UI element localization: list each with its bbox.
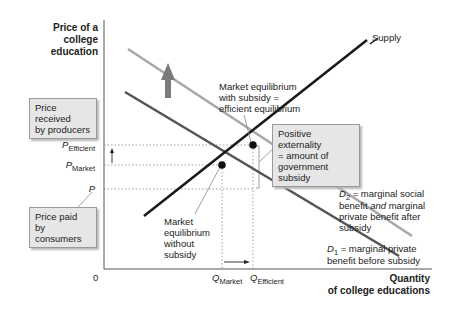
price-received-callout: Price received by producers (29, 98, 97, 139)
d1-sub: 1 (334, 248, 338, 257)
y-title-line: Price of a (51, 22, 98, 34)
tick-sub: Market (219, 277, 242, 286)
d1-label: D1 = marginal private benefit before sub… (327, 243, 420, 266)
d2-text: = marginal social (350, 188, 424, 199)
callout-line: Positive externality (278, 128, 354, 150)
d2-text: private benefit after (339, 211, 425, 222)
callout-line: Price received (35, 102, 91, 124)
d1-main: D (327, 243, 334, 254)
callout-line: = amount of (278, 150, 354, 161)
d1-text: = marginal private (338, 243, 416, 254)
annotation-line: without (164, 238, 210, 249)
annotation-line: equilibrium (164, 227, 210, 238)
d2-text: and (370, 200, 386, 211)
callout-line: by consumers (35, 222, 91, 244)
tick-main: P (89, 183, 95, 194)
d1-text: benefit before subsidy (327, 255, 420, 266)
tick-q-efficient: QEfficient (250, 272, 284, 284)
d2-text: subsidy (339, 222, 425, 233)
price-increase-arrow-icon (110, 148, 114, 163)
tick-p: P (89, 183, 95, 194)
market-equilibrium-point (218, 161, 226, 169)
tick-p-market: PMarket (66, 159, 95, 171)
callout-line: Price paid (35, 211, 91, 222)
d2-text: marginal (386, 200, 425, 211)
efficient-equilibrium-annotation: Market equilibrium with subsidy = effici… (219, 81, 300, 114)
efficient-equilibrium-point (249, 141, 257, 149)
d2-main: D (339, 188, 346, 199)
annotation-line: efficient equilibrium (219, 103, 300, 114)
d2-sub: 2 (346, 193, 350, 202)
x-axis-title: Quantity of college educations (328, 273, 430, 297)
demand-shift-arrow-icon (161, 63, 175, 98)
tick-sub: Efficient (257, 277, 284, 286)
x-title-line: of college educations (328, 285, 430, 297)
y-title-line: education (51, 46, 98, 58)
positive-externality-callout: Positive externality = amount of governm… (272, 124, 360, 187)
origin-label: 0 (93, 272, 98, 283)
tick-sub: Market (72, 164, 95, 173)
subsidy-bracket (256, 146, 259, 188)
price-paid-callout: Price paid by consumers (29, 207, 97, 248)
x-title-line: Quantity (328, 273, 430, 285)
annotation-line: Market equilibrium (219, 81, 300, 92)
annotation-line: subsidy (164, 249, 210, 260)
y-axis-title: Price of a college education (51, 22, 98, 58)
annotation-line: with subsidy = (219, 92, 300, 103)
callout-line: by producers (35, 124, 91, 135)
d2-text: benefit (339, 200, 370, 211)
tick-q-market: QMarket (212, 272, 242, 284)
quantity-increase-arrow-icon (224, 260, 250, 264)
market-equilibrium-annotation: Market equilibrium without subsidy (164, 216, 210, 260)
tick-p-efficient: PEfficient (62, 139, 95, 151)
tick-sub: Efficient (68, 144, 95, 153)
d2-label: D2 = marginal social benefit and margina… (339, 188, 425, 233)
callout-line: government subsidy (278, 161, 354, 183)
supply-label: Supply (372, 32, 401, 43)
y-title-line: college (51, 34, 98, 46)
annotation-line: Market (164, 216, 210, 227)
